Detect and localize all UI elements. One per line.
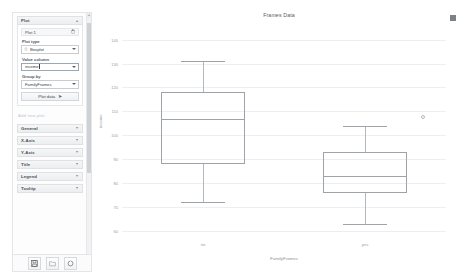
section-header-tooltip[interactable]: Tooltip ▼ — [17, 184, 83, 193]
sidebar-toolbar — [13, 254, 91, 271]
gridline — [122, 40, 446, 41]
scroll-up-arrow[interactable]: ▲ — [87, 13, 91, 18]
boxplot-box[interactable] — [323, 152, 407, 193]
save-icon — [31, 260, 38, 267]
plot-type-select[interactable]: Boxplot — [21, 45, 79, 54]
chart-title: Frames Data — [96, 12, 462, 18]
save-button[interactable] — [28, 257, 41, 270]
section-title-legend: Legend — [21, 174, 37, 179]
gridline — [122, 207, 446, 208]
chart-panel: Frames Data income 140130120110100908070… — [96, 8, 462, 272]
boxplot-icon — [24, 47, 28, 51]
add-plot-hint[interactable]: Add new plot — [18, 113, 87, 118]
field-label-value-column: Value column — [22, 57, 79, 62]
group-by-value: FamilyFrames — [25, 82, 52, 87]
x-axis-label: FamilyFrames — [122, 256, 446, 261]
boxplot-whisker-upper — [365, 126, 366, 152]
x-axis-tick-label: yes — [362, 242, 369, 247]
section-title-title: Title — [21, 162, 30, 167]
y-axis-tick-label: 90 — [94, 157, 118, 162]
field-label-plot-type: Plot type — [22, 39, 79, 44]
boxplot-cap-upper — [181, 61, 225, 62]
section-body-plot: Plot 1 Plot type — [17, 25, 83, 106]
chevron-down-icon[interactable]: ▼ — [75, 126, 79, 130]
chevron-down-icon[interactable]: ▼ — [75, 162, 79, 166]
section-title-general: General — [21, 126, 38, 131]
sidebar-scroll-content: Plot ▲ Plot 1 Plot type — [13, 13, 87, 193]
trash-icon[interactable] — [71, 29, 75, 35]
y-axis-tick-label: 130 — [94, 61, 118, 66]
arrow-right-icon: ➤ — [58, 94, 62, 99]
plot-data-button-label: Plot data — [38, 94, 55, 99]
boxplot-median-line — [323, 176, 407, 177]
section-title-x-axis: X-Axis — [21, 138, 35, 143]
group-by-select[interactable]: FamilyFrames — [21, 80, 79, 89]
y-axis-tick-label: 140 — [94, 37, 118, 42]
plot-data-button[interactable]: Plot data ➤ — [21, 92, 79, 101]
plot-item-label: Plot 1 — [25, 30, 36, 35]
y-axis-tick-label: 120 — [94, 85, 118, 90]
chevron-down-icon[interactable] — [72, 48, 76, 50]
section-header-y-axis[interactable]: Y-Axis ▼ — [17, 148, 83, 157]
plot-settings-sidebar: Plot ▲ Plot 1 Plot type — [12, 12, 92, 272]
app-window: Plot ▲ Plot 1 Plot type — [0, 0, 469, 280]
boxplot-whisker-lower — [365, 193, 366, 224]
boxplot-cap-lower — [181, 202, 225, 203]
section-title-plot: Plot — [21, 18, 30, 23]
field-label-group-by: Group by — [22, 74, 79, 79]
y-axis-tick-label: 80 — [94, 181, 118, 186]
boxplot-cap-upper — [343, 126, 387, 127]
boxplot-cap-lower — [343, 224, 387, 225]
y-axis-tick-label: 110 — [94, 109, 118, 114]
y-axis-tick-label: 100 — [94, 133, 118, 138]
boxplot-whisker-upper — [203, 61, 204, 92]
section-header-x-axis[interactable]: X-Axis ▼ — [17, 136, 83, 145]
y-axis-tick-label: 60 — [94, 229, 118, 234]
gridline — [122, 231, 446, 232]
chevron-down-icon[interactable]: ▼ — [75, 150, 79, 154]
refresh-icon — [67, 260, 74, 267]
boxplot-median-line — [161, 119, 245, 120]
section-header-general[interactable]: General ▼ — [17, 124, 83, 133]
chart-menu-icon[interactable] — [450, 15, 456, 21]
sidebar-scrollbar[interactable]: ▲ ▼ — [86, 13, 91, 271]
scrollbar-thumb[interactable] — [87, 23, 91, 173]
section-header-legend[interactable]: Legend ▼ — [17, 172, 83, 181]
value-column-select[interactable]: income — [21, 63, 79, 72]
plot-type-value: Boxplot — [30, 47, 44, 52]
x-axis-tick-label: no — [201, 242, 206, 247]
section-title-y-axis: Y-Axis — [21, 150, 35, 155]
section-title-tooltip: Tooltip — [21, 186, 36, 191]
open-folder-button[interactable] — [46, 257, 59, 270]
plot-list-item[interactable]: Plot 1 — [21, 28, 79, 36]
chevron-down-icon[interactable]: ▼ — [75, 174, 79, 178]
boxplot-whisker-lower — [203, 164, 204, 202]
chevron-up-icon[interactable]: ▲ — [75, 19, 79, 23]
plot-area: 14013012011010090807060noyes — [122, 30, 446, 236]
value-column-value: income — [25, 64, 39, 69]
y-axis-tick-label: 70 — [94, 205, 118, 210]
chevron-down-icon[interactable] — [72, 66, 76, 68]
open-folder-icon — [49, 260, 56, 267]
boxplot-outlier-point[interactable] — [421, 115, 425, 119]
section-header-plot[interactable]: Plot ▲ — [17, 16, 83, 25]
chevron-down-icon[interactable] — [72, 83, 76, 85]
chevron-down-icon[interactable]: ▼ — [75, 138, 79, 142]
y-axis-label: income — [98, 115, 103, 129]
gridline — [122, 64, 446, 65]
chevron-down-icon[interactable]: ▼ — [75, 186, 79, 190]
gridline — [122, 87, 446, 88]
refresh-button[interactable] — [64, 257, 77, 270]
boxplot-box[interactable] — [161, 92, 245, 164]
section-header-title[interactable]: Title ▼ — [17, 160, 83, 169]
text-cursor — [39, 64, 40, 69]
